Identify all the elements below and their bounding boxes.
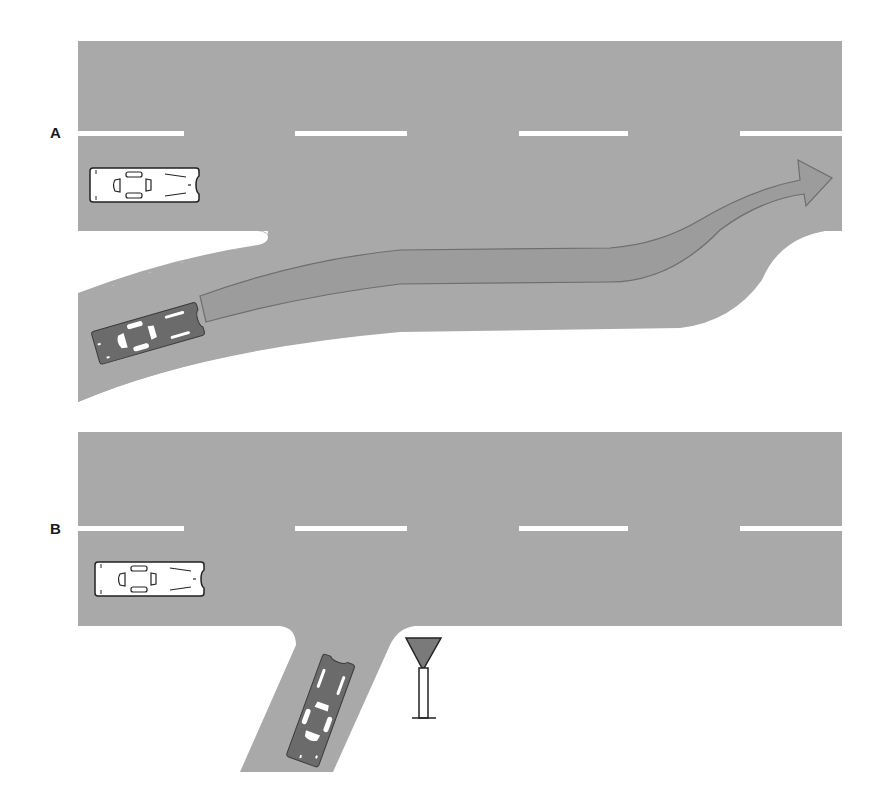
- road-diagram: [0, 0, 883, 811]
- panel-a: [78, 41, 842, 402]
- yield-sign: [406, 638, 441, 718]
- main-road-b: [78, 432, 842, 626]
- panel-b: [78, 432, 842, 772]
- white-car-b: [95, 562, 204, 596]
- white-car-a: [90, 168, 199, 202]
